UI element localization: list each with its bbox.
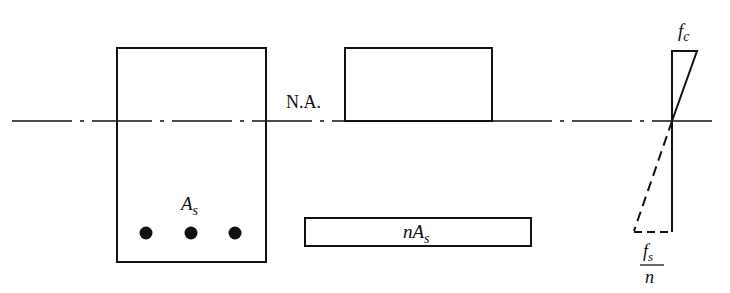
steel-area-label: As (179, 193, 199, 218)
steel-stress-denominator: n (645, 267, 654, 287)
compression-area-rect (345, 48, 492, 121)
stress-diagram (634, 51, 697, 232)
transformed-section-diagram: As N.A. nAs fc fs n (0, 0, 730, 293)
rebar-1 (140, 227, 153, 240)
steel-stress-numerator: fs (643, 241, 653, 264)
concrete-stress-label: fc (678, 20, 690, 44)
compression-stress-triangle (672, 51, 697, 121)
rebar-2 (185, 227, 198, 240)
rebar-3 (229, 227, 242, 240)
neutral-axis-label: N.A. (286, 92, 321, 112)
transformed-steel-label: nAs (403, 221, 430, 246)
steel-stress-dashed-slope (634, 121, 672, 231)
